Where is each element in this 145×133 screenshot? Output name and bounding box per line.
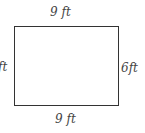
rectangle-shape: [14, 26, 119, 106]
left-side-label: ft: [0, 60, 7, 74]
right-side-label: 6ft: [121, 61, 138, 75]
bottom-side-label: 9 ft: [55, 112, 76, 126]
top-side-label: 9 ft: [50, 5, 71, 19]
